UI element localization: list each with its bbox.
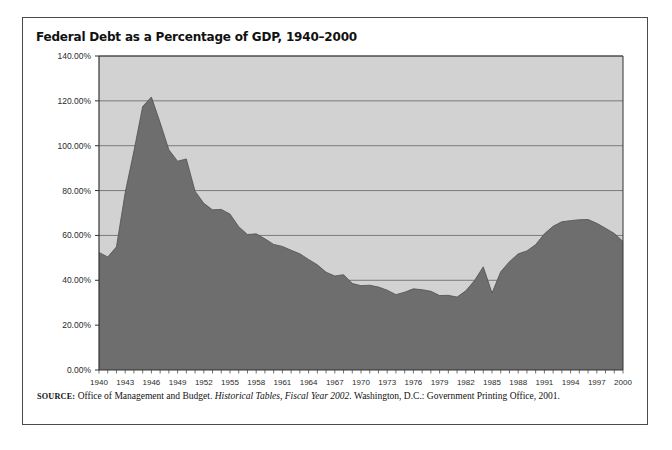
x-tick-label: 1949 — [169, 378, 187, 387]
y-tick-label: 80.00% — [62, 186, 91, 196]
debt-gdp-area-chart: 0.00%20.00%40.00%60.00%80.00%100.00%120.… — [23, 18, 649, 426]
x-tick-label: 1994 — [562, 378, 580, 387]
source-note: SOURCE: Office of Management and Budget.… — [37, 390, 637, 403]
x-tick-label: 1964 — [300, 378, 318, 387]
x-tick-label: 1979 — [431, 378, 449, 387]
x-tick-label: 1997 — [588, 378, 606, 387]
source-text-part1: Office of Management and Budget. — [75, 391, 214, 401]
x-tick-label: 1955 — [221, 378, 239, 387]
x-tick-label: 1982 — [457, 378, 475, 387]
x-tick-label: 1943 — [116, 378, 134, 387]
x-tick-label: 1991 — [536, 378, 554, 387]
x-tick-label: 1958 — [247, 378, 265, 387]
x-tick-label: 1985 — [483, 378, 501, 387]
x-tick-label: 1970 — [352, 378, 370, 387]
x-tick-label: 1952 — [195, 378, 213, 387]
x-tick-label: 1976 — [405, 378, 423, 387]
figure-card: Federal Debt as a Percentage of GDP, 194… — [22, 17, 648, 425]
chart-area: 0.00%20.00%40.00%60.00%80.00%100.00%120.… — [23, 18, 649, 426]
x-tick-label: 2000 — [614, 378, 632, 387]
source-label: SOURCE: — [37, 392, 75, 401]
y-tick-label: 140.00% — [57, 51, 91, 61]
y-tick-label: 0.00% — [67, 365, 92, 375]
source-text-part2: . Washington, D.C.: Government Printing … — [349, 391, 560, 401]
x-tick-label: 1940 — [90, 378, 108, 387]
x-tick-label: 1988 — [509, 378, 527, 387]
y-tick-label: 120.00% — [57, 96, 91, 106]
source-publication-title: Historical Tables, Fiscal Year 2002 — [215, 391, 350, 401]
y-tick-label: 20.00% — [62, 320, 91, 330]
x-tick-label: 1973 — [378, 378, 396, 387]
y-tick-label: 60.00% — [62, 230, 91, 240]
y-tick-label: 40.00% — [62, 275, 91, 285]
x-tick-label: 1961 — [274, 378, 292, 387]
y-tick-label: 100.00% — [57, 141, 91, 151]
x-tick-label: 1967 — [326, 378, 344, 387]
x-tick-label: 1946 — [143, 378, 161, 387]
